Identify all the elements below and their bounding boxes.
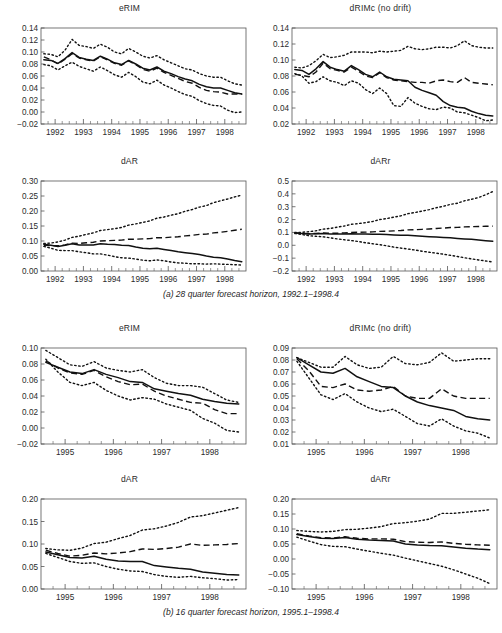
x-tick-label: 1992	[46, 128, 65, 137]
y-tick-label: 0.07	[273, 368, 289, 377]
chart-title-panel-a-darr: dARr	[259, 155, 502, 167]
series-dashed	[297, 534, 490, 545]
x-tick-label: 1995	[382, 128, 401, 137]
series-dashed	[297, 359, 490, 399]
x-tick-label: 1997	[438, 128, 457, 137]
chart-title-panel-a-dar: dAR	[8, 155, 251, 167]
x-tick-label: 1997	[152, 448, 171, 457]
chart-title-panel-b-drimc: dRIMc (no drift)	[259, 322, 502, 334]
chart-svg-panel-a-erim: −0.020.000.020.040.060.080.100.120.14199…	[8, 14, 251, 150]
y-tick-label: −0.02	[17, 120, 38, 129]
y-tick-label: 0.0	[278, 241, 290, 250]
x-tick-label: 1994	[354, 275, 373, 284]
caption-a: (a) 28 quarter forecast horizon, 1992.1–…	[0, 289, 502, 299]
y-tick-label: 0.00	[22, 267, 38, 276]
chart-title-panel-a-erim: eRIM	[8, 2, 251, 14]
y-tick-label: 0.00	[22, 585, 38, 594]
y-tick-label: 0.12	[273, 40, 289, 49]
x-tick-label: 1995	[131, 128, 150, 137]
y-tick-label: 0.01	[273, 440, 289, 449]
y-tick-label: 0.1	[278, 228, 290, 237]
y-tick-label: 0.00	[22, 424, 38, 433]
y-tick-label: 0.15	[273, 510, 289, 519]
chart-panel-panel-b-drimc: dRIMc (no drift)0.010.020.030.040.050.06…	[259, 322, 502, 470]
y-tick-label: 0.15	[22, 222, 38, 231]
y-tick-label: 0.00	[273, 555, 289, 564]
chart-title-panel-b-dar: dAR	[8, 473, 251, 485]
chart-svg-panel-a-drimc: 0.020.040.060.080.100.120.14199219931994…	[259, 14, 502, 150]
y-tick-label: 0.10	[22, 344, 38, 353]
x-tick-label: 1998	[452, 448, 471, 457]
y-tick-label: 0.4	[278, 190, 290, 199]
x-tick-label: 1997	[403, 593, 422, 602]
y-tick-label: 0.25	[22, 192, 38, 201]
chart-title-panel-a-drimc: dRIMc (no drift)	[259, 2, 502, 14]
x-tick-label: 1993	[74, 275, 93, 284]
chart-title-panel-b-erim: eRIM	[8, 322, 251, 334]
y-tick-label: 0.10	[273, 525, 289, 534]
y-tick-label: 0.05	[22, 252, 38, 261]
chart-title-panel-b-darr: dARr	[259, 473, 502, 485]
chart-panel-panel-a-erim: eRIM−0.020.000.020.040.060.080.100.120.1…	[8, 2, 251, 150]
y-tick-label: 0.02	[22, 408, 38, 417]
x-tick-label: 1998	[201, 448, 220, 457]
x-tick-label: 1993	[325, 128, 344, 137]
caption-b: (b) 16 quarter forecast horizon, 1995.1–…	[0, 607, 502, 617]
x-tick-label: 1992	[297, 128, 316, 137]
x-tick-label: 1997	[403, 448, 422, 457]
y-tick-label: −0.1	[273, 254, 290, 263]
x-tick-label: 1995	[307, 593, 326, 602]
y-tick-label: −0.10	[268, 585, 289, 594]
chart-panel-panel-b-erim: eRIM−0.020.000.020.040.060.080.101995199…	[8, 322, 251, 470]
series-solid	[295, 62, 493, 116]
chart-svg-panel-b-dar: 0.000.050.100.150.201995199619971998	[8, 485, 251, 615]
y-tick-label: 0.20	[273, 495, 289, 504]
x-tick-label: 1994	[103, 128, 122, 137]
plot-frame	[41, 28, 246, 124]
plot-frame	[292, 348, 497, 444]
y-tick-label: 0.08	[273, 72, 289, 81]
y-tick-label: −0.05	[268, 570, 289, 579]
series-dotted	[44, 39, 242, 85]
y-tick-label: 0.02	[273, 120, 289, 129]
series-dotted	[295, 233, 493, 262]
series-dashed	[46, 361, 239, 414]
chart-panel-panel-a-darr: dARr−0.2−0.10.00.10.20.30.40.51992199319…	[259, 155, 502, 297]
x-tick-label: 1993	[74, 128, 93, 137]
y-tick-label: 0.10	[22, 48, 38, 57]
x-tick-label: 1997	[438, 275, 457, 284]
y-tick-label: 0.05	[273, 540, 289, 549]
x-tick-label: 1996	[104, 448, 123, 457]
y-tick-label: 0.04	[22, 84, 38, 93]
chart-svg-panel-b-drimc: 0.010.020.030.040.050.060.070.080.091995…	[259, 334, 502, 470]
y-tick-label: −0.02	[17, 440, 38, 449]
series-dotted	[297, 353, 490, 369]
x-tick-label: 1994	[103, 275, 122, 284]
y-tick-label: 0.06	[273, 380, 289, 389]
chart-panel-panel-a-drimc: dRIMc (no drift)0.020.040.060.080.100.12…	[259, 2, 502, 150]
x-tick-label: 1998	[467, 275, 486, 284]
x-tick-label: 1995	[307, 448, 326, 457]
x-tick-label: 1997	[187, 128, 206, 137]
series-dotted	[297, 510, 490, 532]
x-tick-label: 1992	[297, 275, 316, 284]
x-tick-label: 1995	[56, 448, 75, 457]
y-tick-label: 0.14	[22, 24, 38, 33]
y-tick-label: 0.14	[273, 24, 289, 33]
y-tick-label: 0.08	[22, 60, 38, 69]
y-tick-label: 0.05	[22, 563, 38, 572]
y-tick-label: 0.10	[273, 56, 289, 65]
y-tick-label: 0.2	[278, 216, 290, 225]
x-tick-label: 1998	[452, 593, 471, 602]
y-tick-label: 0.05	[273, 392, 289, 401]
forecast-figure: eRIM−0.020.000.020.040.060.080.100.120.1…	[0, 0, 502, 633]
x-tick-label: 1998	[467, 128, 486, 137]
y-tick-label: 0.15	[22, 518, 38, 527]
series-dotted	[44, 195, 242, 243]
y-tick-label: 0.03	[273, 416, 289, 425]
y-tick-label: 0.04	[273, 404, 289, 413]
x-tick-label: 1996	[410, 128, 429, 137]
y-tick-label: 0.08	[22, 360, 38, 369]
y-tick-label: 0.5	[278, 177, 290, 186]
chart-svg-panel-b-darr: −0.10−0.050.000.050.100.150.201995199619…	[259, 485, 502, 615]
